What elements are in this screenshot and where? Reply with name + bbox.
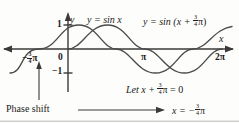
- note-let-prefix: Let x +: [126, 84, 157, 95]
- y-tick-label-one: 1: [57, 19, 62, 29]
- x-tick-label-pi: π: [141, 52, 146, 62]
- phase-shift-label: Phase shift: [6, 103, 50, 114]
- x-tick-label-2pi: 2π: [215, 52, 225, 62]
- axis-x-label: x: [219, 33, 223, 44]
- x-tick-label-phase: −34π: [22, 52, 38, 64]
- phase-shift-arrow-vertical: [36, 61, 42, 100]
- curve-label-suffix: π): [198, 16, 206, 27]
- curve-label-sin-x: y = sin x: [87, 14, 122, 25]
- pi-symbol: π: [32, 53, 37, 63]
- curve-label-sin-x-plus-phase: y = sin (x + 34π): [143, 14, 206, 27]
- note-let-equation: Let x + 34π = 0: [126, 82, 183, 95]
- note-let-suffix: π = 0: [163, 84, 184, 95]
- phase-result-prefix: x = −: [172, 105, 195, 116]
- curve-label-prefix: y = sin (x +: [143, 16, 193, 27]
- phase-shift-result: x = −34π: [172, 103, 205, 116]
- phase-result-suffix: π: [200, 105, 205, 116]
- axis-y-label: y: [70, 14, 74, 25]
- y-tick-label-neg-one: −1: [52, 66, 62, 76]
- phase-shift-arrow-horizontal: [78, 107, 165, 113]
- origin-label: 0: [58, 52, 63, 62]
- phase-shift-sine-figure: y x y = sin x y = sin (x + 34π) 1 −1 0 −…: [0, 0, 239, 123]
